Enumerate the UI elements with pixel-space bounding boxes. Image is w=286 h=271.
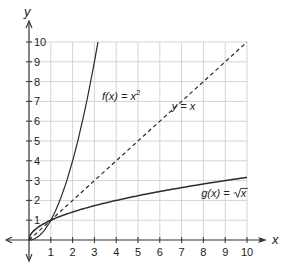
y-axis-label: y bbox=[23, 4, 32, 19]
identity-label: y = x bbox=[171, 100, 196, 112]
x-tick-label: 7 bbox=[179, 246, 185, 258]
x-tick-label: 8 bbox=[200, 246, 206, 258]
annotations: f(x) = x2 y = x g(x) = x bbox=[102, 88, 248, 199]
x-tick-label: 4 bbox=[113, 246, 119, 258]
y-tick-label: 7 bbox=[34, 95, 40, 107]
x-tick-label: 10 bbox=[241, 246, 253, 258]
y-tick-label: 1 bbox=[34, 214, 40, 226]
y-tick-label: 3 bbox=[34, 175, 40, 187]
y-tick-label: 2 bbox=[34, 194, 40, 206]
f-label: f(x) = x2 bbox=[102, 88, 141, 102]
y-tick-label: 5 bbox=[34, 135, 40, 147]
y-tick-label: 8 bbox=[34, 76, 40, 88]
x-tick-label: 2 bbox=[70, 246, 76, 258]
x-tick-label: 3 bbox=[91, 246, 97, 258]
x-tick-label: 5 bbox=[135, 246, 141, 258]
x-tick-label: 1 bbox=[48, 246, 54, 258]
y-tick-label: 10 bbox=[34, 36, 46, 48]
y-tick-label: 4 bbox=[34, 155, 40, 167]
g-label: g(x) = x bbox=[201, 187, 246, 199]
x-tick-label: 6 bbox=[157, 246, 163, 258]
y-tick-label: 6 bbox=[34, 115, 40, 127]
x-tick-label: 9 bbox=[222, 246, 228, 258]
function-graph: 1122334455667788991010 x y f(x) = x2 y =… bbox=[0, 0, 286, 271]
x-axis-label: x bbox=[271, 232, 279, 247]
tick-labels: 1122334455667788991010 bbox=[26, 36, 253, 258]
y-tick-label: 9 bbox=[34, 56, 40, 68]
